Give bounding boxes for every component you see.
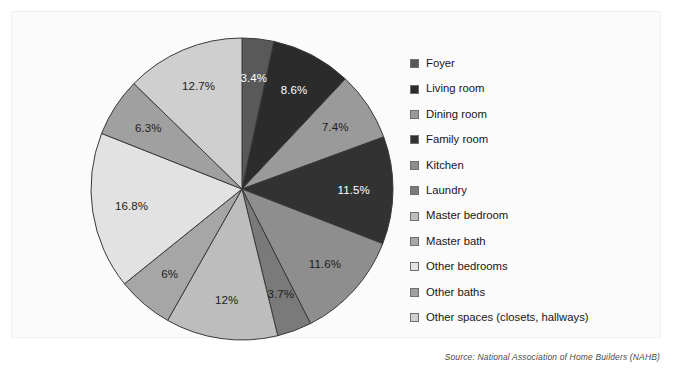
source-attribution: Source: National Association of Home Bui…	[445, 352, 660, 362]
pie-slice-value-label: 3.7%	[267, 288, 294, 300]
legend-item-label: Kitchen	[426, 160, 464, 171]
legend-item[interactable]: Master bedroom	[410, 203, 660, 228]
pie-slice-value-label: 7.4%	[322, 121, 349, 133]
pie-slice-value-label: 3.4%	[241, 72, 268, 84]
legend-swatch-icon	[410, 110, 419, 119]
legend-item-label: Other baths	[426, 287, 485, 298]
pie-slice-value-label: 11.6%	[309, 258, 341, 270]
legend-item[interactable]: Family room	[410, 127, 660, 152]
legend-item-label: Family room	[426, 134, 488, 145]
legend-item[interactable]: Kitchen	[410, 153, 660, 178]
legend-item[interactable]: Living room	[410, 76, 660, 101]
legend-swatch-icon	[410, 59, 419, 68]
legend-swatch-icon	[410, 161, 419, 170]
legend-swatch-icon	[410, 288, 419, 297]
chart-page: 3.4%8.6%7.4%11.5%11.6%3.7%12%6%16.8%6.3%…	[0, 0, 675, 381]
legend-swatch-icon	[410, 85, 419, 94]
legend-swatch-icon	[410, 135, 419, 144]
pie-slice-value-label: 16.8%	[115, 200, 148, 212]
pie-slice-value-label: 6%	[161, 268, 178, 280]
legend-item[interactable]: Master bath	[410, 229, 660, 254]
pie-slice-value-label: 6.3%	[135, 122, 162, 134]
chart-legend: FoyerLiving roomDining roomFamily roomKi…	[410, 51, 660, 330]
legend-swatch-icon	[410, 262, 419, 271]
legend-swatch-icon	[410, 237, 419, 246]
pie-slice-value-label: 12.7%	[182, 80, 215, 92]
legend-item-label: Master bedroom	[426, 210, 508, 221]
legend-item-label: Master bath	[426, 236, 486, 247]
legend-item-label: Living room	[426, 83, 484, 94]
legend-swatch-icon	[410, 212, 419, 221]
legend-item[interactable]: Other bedrooms	[410, 254, 660, 279]
legend-item[interactable]: Other baths	[410, 280, 660, 305]
legend-item-label: Foyer	[426, 58, 455, 69]
legend-item[interactable]: Laundry	[410, 178, 660, 203]
legend-item[interactable]: Foyer	[410, 51, 660, 76]
pie-slice-value-label: 8.6%	[281, 84, 308, 96]
legend-item-label: Other bedrooms	[426, 261, 508, 272]
pie-slice-value-label: 11.5%	[338, 184, 370, 196]
legend-item[interactable]: Dining room	[410, 102, 660, 127]
legend-item[interactable]: Other spaces (closets, hallways)	[410, 305, 660, 330]
legend-item-label: Other spaces (closets, hallways)	[426, 312, 589, 323]
legend-item-label: Dining room	[426, 109, 487, 120]
pie-slice-value-label: 12%	[215, 294, 238, 306]
legend-swatch-icon	[410, 186, 419, 195]
legend-swatch-icon	[410, 313, 419, 322]
legend-item-label: Laundry	[426, 185, 467, 196]
